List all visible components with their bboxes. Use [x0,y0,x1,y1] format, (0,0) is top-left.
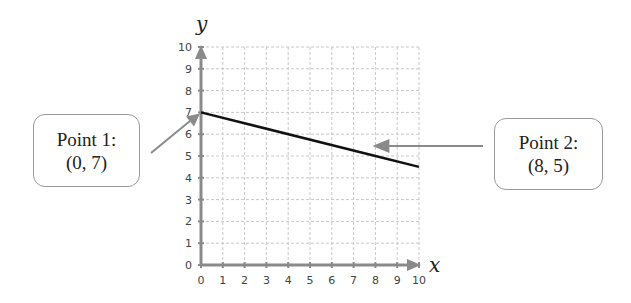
point-2-callout: Point 2: (8, 5) [494,118,603,190]
y-tick-label: 1 [185,237,192,250]
grid-lines [201,47,419,265]
x-tick-label: 6 [328,274,335,287]
tick-labels: 012345678910012345678910 [178,41,426,287]
x-tick-label: 1 [219,274,226,287]
point-1-coords: (0, 7) [66,151,107,174]
point-2-title: Point 2: [519,131,579,154]
y-tick-label: 0 [185,259,192,272]
point-2-arrowhead-icon [372,139,389,153]
y-tick-label: 9 [185,63,192,76]
x-tick-label: 3 [263,274,270,287]
y-tick-label: 10 [178,41,192,54]
x-tick-label: 9 [394,274,401,287]
point-1-title: Point 1: [57,128,117,151]
x-tick-label: 8 [372,274,379,287]
y-tick-label: 8 [185,85,192,98]
point-1-callout: Point 1: (0, 7) [33,114,140,187]
y-tick-label: 4 [185,172,192,185]
y-axis-label: y [195,12,208,36]
x-tick-label: 0 [198,274,205,287]
x-tick-label: 10 [412,274,426,287]
y-tick-label: 5 [185,150,192,163]
y-tick-label: 2 [185,215,192,228]
point-2-coords: (8, 5) [528,154,569,177]
x-tick-label: 4 [285,274,292,287]
x-tick-label: 2 [241,274,248,287]
x-axis-label: x [429,253,440,277]
x-tick-label: 5 [307,274,314,287]
x-tick-label: 7 [350,274,357,287]
y-tick-label: 3 [185,194,192,207]
y-tick-label: 6 [185,128,192,141]
